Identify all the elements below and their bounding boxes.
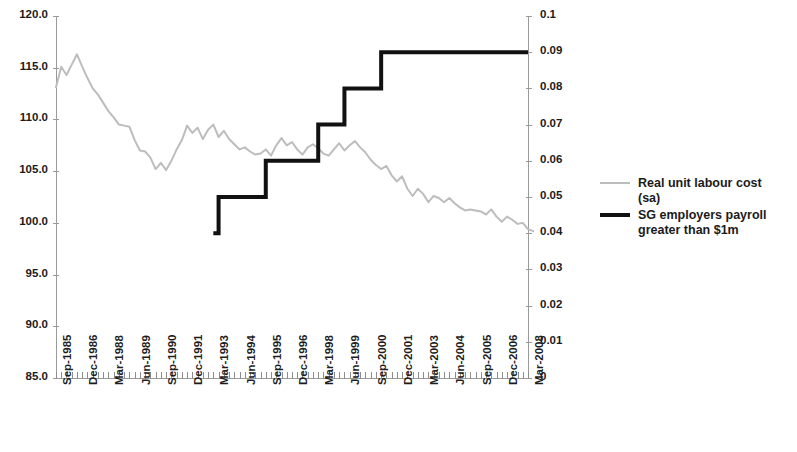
legend-item-sg-employers-payroll: SG employers payroll greater than $1m	[600, 208, 790, 238]
legend-line-icon-grey	[600, 176, 630, 190]
legend-label-0: Real unit labour cost (sa)	[638, 176, 786, 206]
series-real-unit-labour-cost	[56, 54, 533, 231]
legend-line-icon-black	[600, 208, 630, 222]
chart-root: 85.090.095.0100.0105.0110.0115.0120.0 00…	[0, 0, 797, 452]
legend-label-1: SG employers payroll greater than $1m	[638, 208, 786, 238]
chart-legend: Real unit labour cost (sa) SG employers …	[600, 176, 790, 240]
legend-item-real-unit-labour-cost: Real unit labour cost (sa)	[600, 176, 790, 206]
chart-plot-area: 85.090.095.0100.0105.0110.0115.0120.0 00…	[0, 0, 600, 452]
series-sg-employers-payroll	[213, 52, 528, 233]
